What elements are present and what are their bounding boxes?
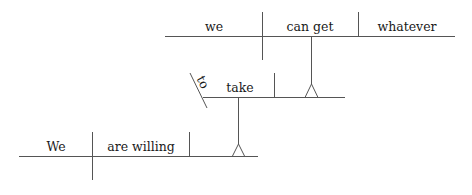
- clause-predicate-word: can get: [287, 19, 334, 34]
- infinitive-phrase: to take: [190, 73, 345, 157]
- main-predicate-word: are willing: [107, 139, 175, 154]
- clause-object-word: whatever: [377, 19, 436, 34]
- sentence-diagram: we can get whatever to take We are willi…: [0, 0, 472, 195]
- clause-pedestal-foot: [305, 84, 318, 98]
- main-subject-word: We: [46, 139, 65, 154]
- infinitive-marker-word: to: [193, 73, 212, 91]
- infinitive-pedestal-foot: [232, 144, 245, 157]
- clause-subject-word: we: [205, 19, 223, 34]
- main-clause: We are willing: [19, 132, 258, 180]
- infinitive-verb-word: take: [226, 80, 253, 95]
